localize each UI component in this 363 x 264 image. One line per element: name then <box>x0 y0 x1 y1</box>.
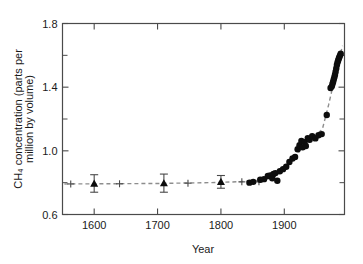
data-point-triangle <box>90 179 98 186</box>
data-point <box>303 143 309 149</box>
y-tick-label: 1.8 <box>42 18 57 30</box>
x-tick-label: 1600 <box>82 219 106 231</box>
x-axis-ticks-top <box>94 24 284 30</box>
x-tick-label: 1800 <box>209 219 233 231</box>
x-tick-label: 1700 <box>145 219 169 231</box>
circle-data-points <box>246 51 344 186</box>
data-point <box>274 178 280 184</box>
data-point <box>292 154 298 160</box>
x-axis-title: Year <box>192 243 215 255</box>
data-point-triangle <box>217 178 225 185</box>
data-point <box>337 51 343 57</box>
x-axis-tick-labels: 1600170018001900 <box>82 219 297 231</box>
x-tick-label: 1900 <box>272 219 296 231</box>
methane-concentration-chart: 1600170018001900 0.61.01.41.8 Year CH₄ c… <box>0 0 363 264</box>
data-point <box>250 179 256 185</box>
y-axis-title-line-2: million by volume) <box>23 75 35 163</box>
data-point <box>324 112 330 118</box>
plot-frame <box>63 24 345 215</box>
y-tick-label: 1.4 <box>42 81 57 93</box>
data-point-triangle <box>160 179 168 186</box>
y-tick-label: 0.6 <box>42 209 57 221</box>
y-tick-label: 1.0 <box>42 145 57 157</box>
y-axis-ticks-left <box>63 24 69 215</box>
y-axis-tick-labels: 0.61.01.41.8 <box>42 18 57 221</box>
data-point <box>318 131 324 137</box>
x-axis-ticks-bottom <box>94 209 284 215</box>
trend-line <box>64 46 342 184</box>
chart-svg: 1600170018001900 0.61.01.41.8 Year CH₄ c… <box>0 0 363 264</box>
